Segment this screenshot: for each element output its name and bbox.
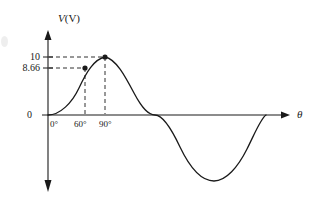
y-axis-title-symbol: V xyxy=(58,12,65,24)
sine-wave-figure: V(V) 10 8.66 0 0° 60° 90° θ xyxy=(0,0,321,206)
x-tick-label-90deg: 90° xyxy=(99,120,112,129)
x-tick-label-0deg: 0° xyxy=(50,120,58,129)
x-axis-title: θ xyxy=(297,109,302,120)
y-axis-arrowhead-up xyxy=(45,30,52,40)
y-axis-arrowhead-down xyxy=(45,180,52,192)
y-tick-label-8point66: 8.66 xyxy=(4,63,40,73)
data-point-90deg xyxy=(102,54,107,59)
x-axis xyxy=(48,112,290,119)
x-axis-arrowhead xyxy=(281,112,290,119)
y-axis xyxy=(45,30,52,192)
origin-label: 0 xyxy=(27,110,32,120)
data-point-60deg xyxy=(82,65,87,70)
y-axis-title: V(V) xyxy=(58,13,80,24)
plot-canvas xyxy=(0,0,321,206)
x-tick-label-60deg: 60° xyxy=(74,120,87,129)
y-axis-title-unit: (V) xyxy=(65,12,80,24)
y-tick-label-10: 10 xyxy=(10,52,40,62)
